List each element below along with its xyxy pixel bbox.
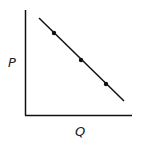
x-axis-label: Q: [75, 124, 85, 139]
y-axis-label: P: [8, 55, 16, 70]
data-point: [52, 31, 56, 35]
data-point: [79, 58, 83, 62]
demand-chart: P Q: [0, 0, 142, 146]
data-point: [104, 82, 108, 86]
